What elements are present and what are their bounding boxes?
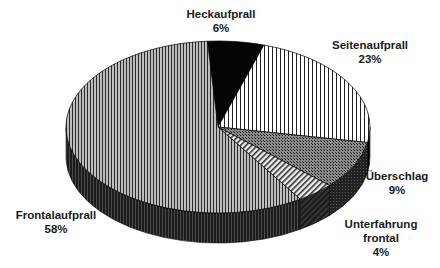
pie-slices [66,41,370,213]
label-frontalaufprall-pct: 58% [6,222,106,236]
label-frontalaufprall: Frontalaufprall 58% [6,208,106,236]
label-heckaufprall-name: Heckaufprall [166,7,276,21]
label-unterfahrung-line2: frontal [336,231,426,245]
label-seitenaufprall: Seitenaufprall 23% [320,38,420,66]
label-unterfahrung-frontal: Unterfahrung frontal 4% [336,217,426,259]
label-ueberschlag-pct: 9% [362,183,432,197]
label-seitenaufprall-pct: 23% [320,52,420,66]
label-unterfahrung-line1: Unterfahrung [336,217,426,231]
label-unterfahrung-pct: 4% [336,245,426,259]
label-ueberschlag: Überschlag 9% [362,169,432,197]
label-seitenaufprall-name: Seitenaufprall [320,38,420,52]
label-heckaufprall: Heckaufprall 6% [166,7,276,35]
label-ueberschlag-name: Überschlag [362,169,432,183]
label-heckaufprall-pct: 6% [166,21,276,35]
label-frontalaufprall-name: Frontalaufprall [6,208,106,222]
